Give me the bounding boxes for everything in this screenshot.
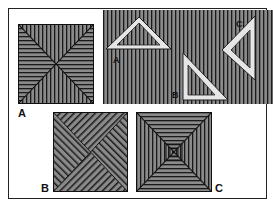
label-triangle-b: B [172, 91, 179, 100]
square-b [53, 112, 128, 192]
triangles-panel [103, 10, 273, 104]
square-a [18, 24, 94, 104]
square-c [136, 112, 212, 192]
label-triangle-c: C [236, 20, 243, 29]
label-triangle-a: A [113, 56, 120, 65]
label-square-a: A [18, 108, 26, 119]
label-square-b: B [41, 183, 49, 194]
label-square-c: C [215, 183, 223, 194]
